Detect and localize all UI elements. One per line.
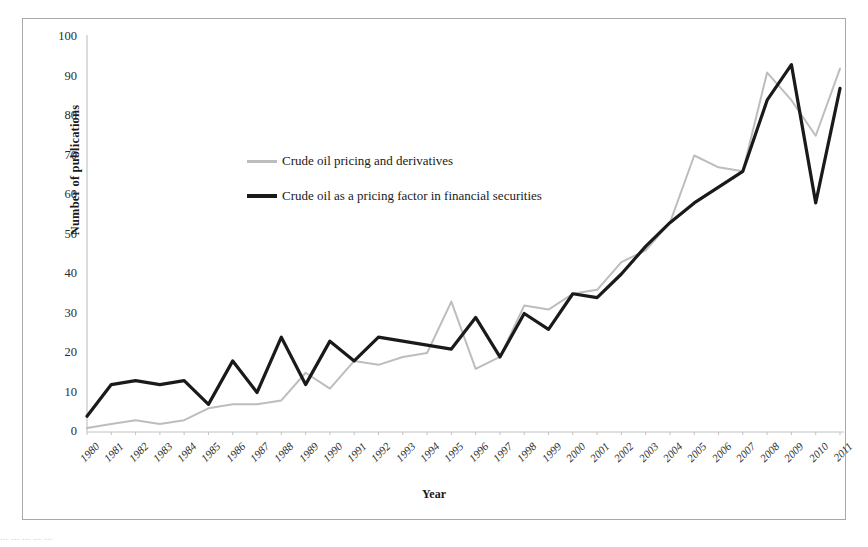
figure-container: Number of publications Year 010203040506… [0,0,868,547]
figure-caption-partial: ... ... ... ... ... [0,530,430,543]
chart-plot-area [0,0,868,547]
data-series-line [87,69,840,428]
data-series-line [87,65,840,417]
